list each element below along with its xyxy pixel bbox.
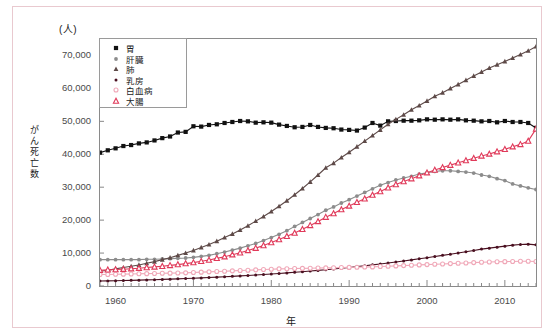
chart-legend: 胃肝臓肺乳房白血病大腸 [99, 38, 187, 108]
x-tick-label: 1980 [261, 295, 282, 306]
filled-dot-icon [108, 75, 124, 85]
legend-item-5[interactable]: 大腸 [100, 96, 186, 107]
x-tick-label: 2000 [416, 295, 437, 306]
y-tick-label: 60,000 [62, 82, 91, 93]
x-tick-label: 1990 [339, 295, 360, 306]
filled-square-icon [108, 43, 124, 53]
x-axis-title: 年 [13, 313, 556, 328]
x-tick-label: 1970 [183, 295, 204, 306]
chart-frame: (人) がん死亡数 010,00020,00030,00040,00050,00… [12, 6, 542, 328]
legend-label: 大腸 [126, 95, 144, 107]
series-0 [100, 117, 536, 154]
y-tick-label: 10,000 [62, 247, 91, 258]
open-triangle-icon [108, 96, 124, 106]
legend-item-1[interactable]: 肝臓 [100, 54, 186, 65]
y-tick-label: 0 [86, 280, 91, 291]
y-tick-label: 40,000 [62, 148, 91, 159]
y-tick-label: 70,000 [62, 49, 91, 60]
series-1 [100, 169, 536, 262]
y-tick-label: 50,000 [62, 115, 91, 126]
y-tick-label: 20,000 [62, 214, 91, 225]
open-circle-icon [108, 85, 124, 95]
filled-circle-icon [108, 54, 124, 64]
filled-triangle-icon [108, 64, 124, 74]
y-tick-label: 30,000 [62, 181, 91, 192]
x-tick-label: 2010 [494, 295, 515, 306]
x-tick-label: 1960 [105, 295, 126, 306]
y-axis-ticks: 010,00020,00030,00040,00050,00060,00070,… [33, 7, 91, 335]
series-4 [100, 259, 536, 276]
